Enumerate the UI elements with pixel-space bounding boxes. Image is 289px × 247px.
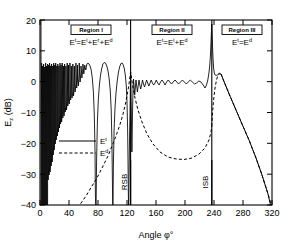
region-3-label: Region III [229, 27, 256, 33]
x-axis-title: Angle φ° [139, 230, 174, 240]
x-tick-label: 40 [64, 208, 74, 218]
y-tick-label: 10 [26, 46, 36, 56]
svg-text:Ez (dB): Ez (dB) [3, 98, 14, 126]
y-tick-label: −30 [21, 170, 36, 180]
y-tick-label: −20 [21, 139, 36, 149]
region-1-equation: Et=Ei+Er+Ed [69, 37, 112, 47]
x-tick-label: 0 [37, 208, 42, 218]
rsb-label: RSB [120, 174, 129, 190]
y-tick-label: −40 [21, 200, 36, 210]
x-tick-label: 120 [119, 208, 134, 218]
y-axis-title: Ez (dB) [3, 98, 14, 126]
x-tick-label: 80 [93, 208, 103, 218]
y-tick-label: 0 [31, 77, 36, 87]
x-tick-label: 280 [235, 208, 250, 218]
region-2-label: Region II [159, 27, 185, 33]
isb-label: ISB [201, 176, 210, 189]
region-2-equation: Et=Ei+Ed [156, 37, 187, 47]
figure-container: 20 10 0 −10 −20 −30 −40 0 40 80 120 160 … [0, 0, 289, 247]
x-tick-label: 160 [148, 208, 163, 218]
x-tick-label: 200 [177, 208, 192, 218]
x-tick-labels: 0 40 80 120 160 200 240 280 320 [37, 208, 279, 218]
x-tick-label: 320 [264, 208, 279, 218]
region-1-label: Region I [79, 27, 103, 33]
y-tick-label: −10 [21, 108, 36, 118]
y-tick-label: 20 [26, 16, 36, 26]
y-axis-unit: (dB) [3, 98, 13, 115]
chart-svg: 20 10 0 −10 −20 −30 −40 0 40 80 120 160 … [0, 0, 289, 247]
x-tick-label: 240 [206, 208, 221, 218]
